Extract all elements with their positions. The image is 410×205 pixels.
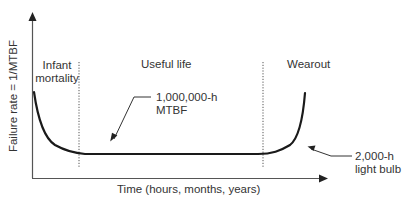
x-axis: [32, 175, 328, 183]
annotation-light-bulb: 2,000-h light bulb: [355, 150, 401, 176]
lightbulb-annotation-line2: light bulb: [355, 163, 401, 176]
lightbulb-leader-line: [311, 149, 352, 156]
infant-label-line2: mortality: [34, 72, 80, 85]
y-axis-arrow-icon: [29, 12, 37, 21]
mtbf-annotation-line2: MTBF: [156, 104, 217, 117]
y-axis-label: Failure rate = 1/MTBF: [7, 39, 19, 153]
mtbf-annotation-line1: 1,000,000-h: [156, 91, 217, 104]
bathtub-curve-diagram: Failure rate = 1/MTBF Time (hours, month…: [0, 0, 410, 205]
annotation-mtbf: 1,000,000-h MTBF: [156, 91, 217, 117]
x-axis-arrow-icon: [319, 175, 328, 183]
region-label-infant-mortality: Infant mortality: [34, 59, 80, 85]
x-axis-label: Time (hours, months, years): [117, 183, 260, 196]
region-label-useful-life: Useful life: [141, 58, 192, 71]
infant-label-line1: Infant: [34, 59, 80, 72]
region-label-wearout: Wearout: [287, 58, 330, 71]
mtbf-leader-line: [114, 97, 151, 139]
lightbulb-annotation-line1: 2,000-h: [355, 150, 401, 163]
